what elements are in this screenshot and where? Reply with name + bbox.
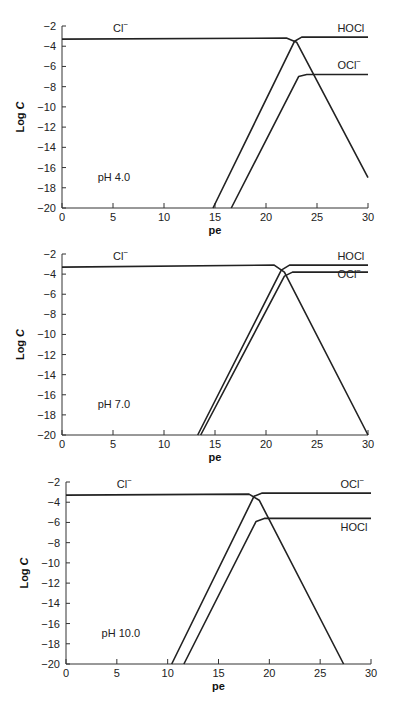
y-tick-label: −16 xyxy=(41,618,60,630)
y-tick-label: −8 xyxy=(43,81,56,93)
series-label: OCl− xyxy=(337,266,361,280)
x-tick-label: 30 xyxy=(362,438,374,450)
y-tick-label: −14 xyxy=(37,369,56,381)
y-tick-label: −14 xyxy=(37,141,56,153)
chart-panel-2: −2−4−6−8−10−12−14−16−18−20051015202530pe… xyxy=(14,248,374,463)
y-tick-label: −2 xyxy=(43,248,56,260)
y-tick-label: −6 xyxy=(43,288,56,300)
x-tick-label: 30 xyxy=(365,667,377,679)
y-tick-label: −20 xyxy=(37,202,56,214)
y-tick-label: −20 xyxy=(41,658,60,670)
chart-panel-1: −2−4−6−8−10−12−14−16−18−20051015202530pe… xyxy=(14,20,374,236)
x-tick-label: 0 xyxy=(59,438,65,450)
x-tick-label: 0 xyxy=(63,667,69,679)
y-tick-label: −4 xyxy=(43,268,56,280)
x-tick-label: 5 xyxy=(114,667,120,679)
x-tick-label: 0 xyxy=(59,211,65,223)
y-tick-label: −6 xyxy=(43,60,56,72)
x-axis-title: pe xyxy=(209,451,222,463)
y-tick-label: −16 xyxy=(37,162,56,174)
y-tick-label: −4 xyxy=(43,40,56,52)
y-tick-label: −20 xyxy=(37,429,56,441)
y-tick-label: −12 xyxy=(41,577,60,589)
series-label: OCl− xyxy=(337,57,361,71)
series-label: HOCl xyxy=(337,250,364,262)
series-label: OCl− xyxy=(341,476,365,490)
y-tick-label: −18 xyxy=(37,182,56,194)
series-ocl-line xyxy=(201,272,368,435)
y-tick-label: −18 xyxy=(41,638,60,650)
x-tick-label: 5 xyxy=(110,438,116,450)
series-label: Cl− xyxy=(113,248,128,262)
series-label: Cl− xyxy=(113,20,128,34)
x-axis-title: pe xyxy=(212,680,225,692)
y-tick-label: −8 xyxy=(43,308,56,320)
y-tick-label: −2 xyxy=(43,20,56,32)
y-tick-label: −6 xyxy=(47,516,60,528)
x-tick-label: 10 xyxy=(158,211,170,223)
x-tick-label: 10 xyxy=(158,438,170,450)
plot-canvas: −2−4−6−8−10−12−14−16−18−20051015202530pe… xyxy=(0,0,398,707)
series-cl-line xyxy=(62,38,368,178)
y-axis-title: Log C xyxy=(18,556,30,588)
chart-figure: −2−4−6−8−10−12−14−16−18−20051015202530pe… xyxy=(0,0,398,707)
ph-annotation: pH 7.0 xyxy=(98,398,130,410)
series-hocl-line xyxy=(198,265,368,435)
x-tick-label: 5 xyxy=(110,211,116,223)
y-axis-title: Log C xyxy=(14,328,26,360)
x-tick-label: 15 xyxy=(212,667,224,679)
y-tick-label: −2 xyxy=(47,476,60,488)
chart-panel-3: −2−4−6−8−10−12−14−16−18−20051015202530pe… xyxy=(18,476,377,692)
x-axis-title: pe xyxy=(209,224,222,236)
x-tick-label: 20 xyxy=(263,667,275,679)
series-ocl-line xyxy=(231,75,368,209)
y-tick-label: −12 xyxy=(37,121,56,133)
y-tick-label: −16 xyxy=(37,389,56,401)
x-tick-label: 30 xyxy=(362,211,374,223)
ph-annotation: pH 10.0 xyxy=(102,627,141,639)
series-label: HOCl xyxy=(341,521,368,533)
x-tick-label: 25 xyxy=(311,438,323,450)
x-tick-label: 20 xyxy=(260,438,272,450)
x-tick-label: 25 xyxy=(311,211,323,223)
y-tick-label: −18 xyxy=(37,409,56,421)
y-tick-label: −4 xyxy=(47,496,60,508)
x-tick-label: 20 xyxy=(260,211,272,223)
x-tick-label: 25 xyxy=(314,667,326,679)
y-tick-label: −10 xyxy=(41,557,60,569)
series-hocl-line xyxy=(184,518,371,664)
series-label: Cl− xyxy=(117,476,132,490)
y-tick-label: −14 xyxy=(41,597,60,609)
series-label: HOCl xyxy=(337,22,364,34)
y-axis-title: Log C xyxy=(14,100,26,132)
y-tick-label: −12 xyxy=(37,349,56,361)
y-tick-label: −8 xyxy=(47,537,60,549)
y-tick-label: −10 xyxy=(37,101,56,113)
y-tick-label: −10 xyxy=(37,328,56,340)
ph-annotation: pH 4.0 xyxy=(98,171,130,183)
x-tick-label: 10 xyxy=(162,667,174,679)
x-tick-label: 15 xyxy=(209,211,221,223)
x-tick-label: 15 xyxy=(209,438,221,450)
